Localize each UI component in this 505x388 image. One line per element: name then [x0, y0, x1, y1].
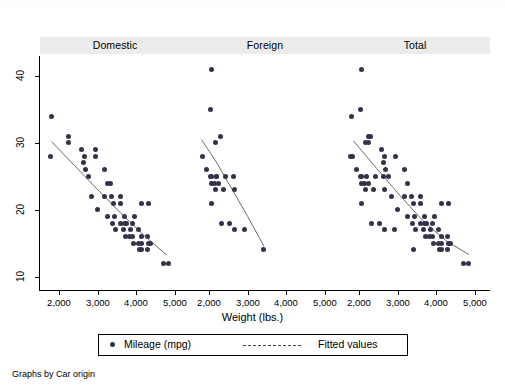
data-point: [139, 234, 144, 239]
x-tick: [175, 291, 176, 295]
data-point: [405, 214, 410, 219]
panel-title-domestic: Domestic: [40, 37, 190, 54]
data-point: [439, 241, 444, 246]
data-point: [89, 194, 94, 199]
x-tick-label: 3,000: [378, 297, 418, 308]
data-point: [82, 154, 87, 159]
panel-title-total: Total: [340, 37, 490, 54]
data-point: [354, 167, 359, 172]
y-tick: [35, 76, 39, 77]
data-point: [204, 167, 209, 172]
y-tick: [35, 277, 39, 278]
data-point: [112, 214, 117, 219]
data-point: [218, 134, 223, 139]
data-point: [223, 174, 228, 179]
data-point: [93, 154, 98, 159]
data-point: [430, 221, 435, 226]
data-point: [108, 181, 113, 186]
data-point: [382, 154, 387, 159]
data-point: [421, 227, 426, 232]
x-tick: [398, 291, 399, 295]
data-point: [439, 234, 444, 239]
y-axis-line: [39, 56, 40, 291]
data-point: [209, 201, 214, 206]
data-point: [130, 221, 135, 226]
data-point: [219, 221, 224, 226]
x-tick-label: 4,000: [416, 297, 456, 308]
data-point: [412, 214, 417, 219]
legend-line-label: Fitted values: [318, 338, 378, 350]
data-point: [118, 194, 123, 199]
data-point: [93, 147, 98, 152]
data-point: [359, 67, 364, 72]
data-point: [213, 140, 218, 145]
data-point: [411, 247, 416, 252]
data-point: [200, 154, 205, 159]
dashed-line-icon: [243, 345, 301, 346]
data-point: [66, 134, 71, 139]
data-point: [95, 207, 100, 212]
data-point: [430, 234, 435, 239]
data-point: [130, 234, 135, 239]
data-point: [349, 114, 354, 119]
x-tick: [98, 291, 99, 295]
data-point: [393, 154, 398, 159]
data-point: [139, 201, 144, 206]
data-point: [363, 187, 368, 192]
y-tick-label: 40: [15, 64, 26, 88]
y-tick-label: 10: [15, 265, 26, 289]
data-point: [439, 201, 444, 206]
data-point: [358, 107, 363, 112]
data-point: [445, 234, 450, 239]
data-point: [348, 154, 353, 159]
x-tick: [136, 291, 137, 295]
data-point: [105, 214, 110, 219]
data-point: [136, 227, 141, 232]
data-point: [402, 167, 407, 172]
x-tick-label: 3,000: [78, 297, 118, 308]
data-point: [402, 194, 407, 199]
data-point: [436, 227, 441, 232]
x-tick: [325, 291, 326, 295]
x-tick: [59, 291, 60, 295]
x-tick: [248, 291, 249, 295]
y-tick-label: 20: [15, 198, 26, 222]
data-point: [386, 174, 391, 179]
data-point: [231, 174, 236, 179]
data-point: [132, 214, 137, 219]
data-point: [368, 134, 373, 139]
data-point: [166, 261, 171, 266]
data-point: [242, 227, 247, 232]
data-point: [446, 201, 451, 206]
data-point: [86, 174, 91, 179]
filled-circle-icon: [110, 342, 115, 347]
data-point: [410, 221, 415, 226]
x-tick: [209, 291, 210, 295]
data-point: [369, 221, 374, 226]
x-tick-label: 3,000: [228, 297, 268, 308]
data-point: [432, 214, 437, 219]
data-point: [382, 227, 387, 232]
data-point: [145, 247, 150, 252]
data-point: [109, 194, 114, 199]
data-point: [208, 107, 213, 112]
data-point: [232, 187, 237, 192]
data-point: [232, 227, 237, 232]
x-tick: [286, 291, 287, 295]
data-point: [148, 241, 153, 246]
data-point: [121, 227, 126, 232]
data-point: [111, 201, 116, 206]
data-point: [214, 174, 219, 179]
x-tick-label: 4,000: [266, 297, 306, 308]
data-point: [124, 221, 129, 226]
x-axis-line: [189, 290, 340, 291]
x-tick-label: 2,000: [339, 297, 379, 308]
data-point: [364, 174, 369, 179]
data-point: [428, 227, 433, 232]
chart-figure: DomesticForeignTotal102030402,0003,0004,…: [0, 0, 505, 388]
fitted-lines-layer: [0, 0, 505, 388]
data-point: [209, 67, 214, 72]
data-point: [128, 227, 133, 232]
data-point: [102, 167, 107, 172]
x-axis-line: [339, 290, 490, 291]
